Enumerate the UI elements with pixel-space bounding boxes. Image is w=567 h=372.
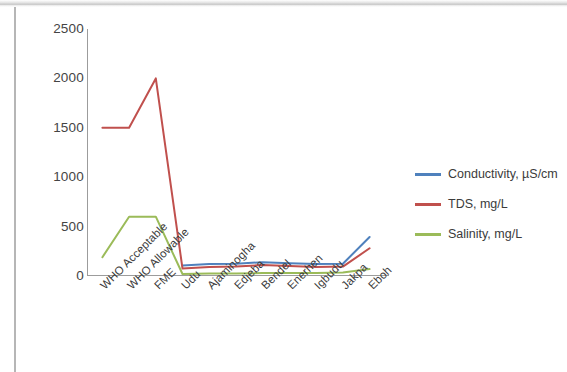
legend-color-swatch — [415, 173, 441, 176]
legend-label: Salinity, mg/L — [448, 228, 522, 241]
legend-item-2[interactable]: Salinity, mg/L — [415, 219, 567, 249]
scanned-page-left-edge — [14, 7, 16, 372]
legend-color-swatch — [415, 203, 441, 206]
legend-item-0[interactable]: Conductivity, µS/cm — [415, 159, 567, 189]
chart-legend: Conductivity, µS/cmTDS, mg/LSalinity, mg… — [415, 159, 567, 249]
plot-area — [87, 29, 389, 276]
y-axis: 25002000150010005000 — [32, 9, 84, 299]
y-axis-label: 2500 — [38, 22, 84, 36]
line-chart-svg — [87, 29, 389, 276]
legend-label: Conductivity, µS/cm — [448, 168, 558, 181]
y-axis-label: 500 — [38, 220, 84, 234]
y-axis-label: 1500 — [38, 121, 84, 135]
scanned-page-top-edge — [0, 0, 567, 7]
x-axis: WHO AcceptableWHO AllowableFMEUduAjamino… — [18, 281, 438, 372]
legend-color-swatch — [415, 233, 441, 236]
legend-label: TDS, mg/L — [448, 198, 508, 211]
legend-item-1[interactable]: TDS, mg/L — [415, 189, 567, 219]
y-axis-label: 1000 — [38, 170, 84, 184]
y-axis-label: 2000 — [38, 71, 84, 85]
chart-container: 25002000150010005000 WHO AcceptableWHO A… — [18, 9, 567, 372]
